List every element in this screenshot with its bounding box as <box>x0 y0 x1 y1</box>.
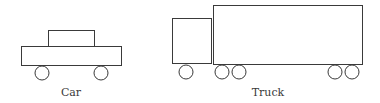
truck-label: Truck <box>252 86 285 99</box>
car-wheel-front <box>35 66 49 80</box>
truck-wheel-mid-2 <box>232 65 246 79</box>
vehicle-diagram: Car Truck <box>0 0 380 103</box>
car-label: Car <box>61 86 82 99</box>
truck-wheel-rear-2 <box>345 65 359 79</box>
truck-group: Truck <box>173 6 363 100</box>
truck-wheel-mid-1 <box>215 65 229 79</box>
truck-wheel-rear-1 <box>328 65 342 79</box>
truck-trailer <box>214 6 363 65</box>
car-cabin <box>49 31 95 47</box>
truck-cab <box>173 19 212 64</box>
truck-wheel-cab <box>179 65 193 79</box>
car-wheel-rear <box>94 66 108 80</box>
car-group: Car <box>22 31 122 100</box>
car-body <box>22 47 122 66</box>
